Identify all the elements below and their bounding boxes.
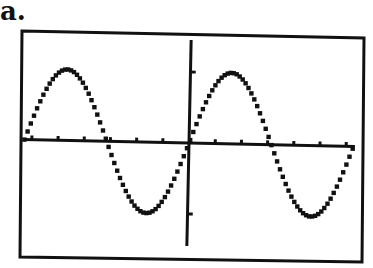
- curve-pixel: [275, 159, 279, 163]
- curve-pixel: [289, 194, 293, 198]
- curve-pixel: [284, 182, 288, 186]
- curve-pixel: [129, 199, 133, 203]
- curve-pixel: [243, 81, 247, 85]
- curve-pixel: [112, 161, 116, 165]
- curve-pixel: [347, 155, 351, 159]
- curve-pixel: [246, 86, 250, 90]
- curve-pixel: [322, 206, 326, 210]
- curve-pixel: [109, 153, 113, 157]
- curve-pixel: [169, 183, 173, 187]
- curve-pixel: [272, 151, 276, 155]
- curve-pixel: [156, 204, 160, 208]
- curve-pixel: [118, 176, 122, 180]
- curve-pixel: [124, 189, 128, 193]
- curve-pixel: [84, 86, 88, 90]
- curve-pixel: [29, 121, 33, 125]
- curve-pixel: [160, 200, 164, 204]
- curve-pixel: [41, 93, 45, 97]
- calculator-graph: [0, 0, 373, 268]
- curve-pixel: [81, 81, 85, 85]
- curve-pixel: [175, 169, 179, 173]
- curve-pixel: [38, 99, 42, 103]
- curve-pixel: [328, 197, 332, 201]
- curve-pixel: [121, 183, 125, 187]
- curve-pixel: [252, 97, 256, 101]
- curve-pixel: [292, 200, 296, 204]
- curve-pixel: [198, 114, 202, 118]
- curve-pixel: [95, 112, 99, 116]
- curve-pixel: [101, 128, 105, 132]
- curve-pixel: [341, 170, 345, 174]
- curve-pixel: [295, 204, 299, 208]
- curve-pixel: [332, 191, 336, 195]
- curve-pixel: [92, 105, 96, 109]
- curve-pixel: [201, 107, 205, 111]
- curve-pixel: [87, 92, 91, 96]
- curve-pixel: [255, 104, 259, 108]
- curve-pixel: [188, 138, 192, 142]
- curve-pixel: [48, 81, 52, 85]
- curve-pixel: [104, 137, 108, 141]
- curve-pixel: [325, 202, 329, 206]
- curve-pixel: [182, 154, 186, 158]
- curve-pixel: [281, 175, 285, 179]
- curve-pixel: [191, 130, 195, 134]
- curve-pixel: [261, 119, 265, 123]
- curve-pixel: [32, 114, 36, 118]
- curve-pixel: [178, 162, 182, 166]
- curve-pixel: [98, 120, 102, 124]
- curve-pixel: [344, 162, 348, 166]
- curve-pixel: [338, 178, 342, 182]
- curve-pixel: [172, 177, 176, 181]
- curve-pixel: [194, 122, 198, 126]
- curve-pixel: [35, 106, 39, 110]
- curve-pixel: [335, 184, 339, 188]
- curve-pixel: [213, 83, 217, 87]
- curve-pixel: [241, 77, 245, 81]
- curve-pixel: [249, 91, 253, 95]
- curve-pixel: [351, 147, 355, 151]
- curve-pixel: [22, 137, 26, 141]
- curve-pixel: [286, 188, 290, 192]
- curve-pixel: [264, 127, 268, 131]
- curve-pixel: [166, 189, 170, 193]
- curve-pixel: [258, 111, 262, 115]
- curve-pixel: [210, 88, 214, 92]
- curve-pixel: [269, 143, 273, 147]
- curve-pixel: [266, 135, 270, 139]
- curve-pixel: [44, 87, 48, 91]
- curve-pixel: [106, 145, 110, 149]
- curve-pixel: [185, 146, 189, 150]
- curve-pixel: [115, 169, 119, 173]
- curve-pixel: [78, 76, 82, 80]
- curve-pixel: [278, 167, 282, 171]
- curve-pixel: [207, 94, 211, 98]
- curve-pixel: [89, 98, 93, 102]
- curve-pixel: [25, 129, 29, 133]
- curve-pixel: [204, 100, 208, 104]
- curve-pixel: [163, 195, 167, 199]
- curve-pixel: [127, 194, 131, 198]
